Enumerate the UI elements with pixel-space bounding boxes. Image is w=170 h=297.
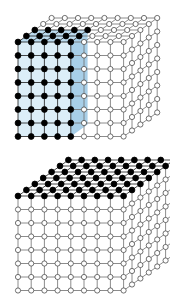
lattice-node-filled bbox=[55, 39, 61, 45]
lattice-node-open bbox=[121, 274, 126, 279]
lattice-node-open bbox=[129, 228, 134, 233]
node-layer bbox=[15, 157, 170, 293]
lattice-node-filled bbox=[37, 187, 43, 193]
lattice-node-open bbox=[81, 66, 86, 71]
lattice-node-open bbox=[155, 196, 160, 201]
lattice-node-filled bbox=[15, 134, 21, 140]
lattice-node-filled bbox=[97, 163, 103, 169]
lattice-node-filled bbox=[103, 187, 109, 193]
lattice-node-open bbox=[121, 107, 126, 112]
lattice-node-open bbox=[138, 54, 143, 59]
lattice-node-filled bbox=[28, 66, 34, 72]
lattice-node-open bbox=[54, 21, 59, 26]
lattice-node-open bbox=[108, 39, 113, 44]
lattice-node-open bbox=[155, 83, 160, 88]
lattice-node-open bbox=[81, 134, 86, 139]
lattice-node-filled bbox=[68, 193, 74, 199]
lattice-node-open bbox=[68, 274, 73, 279]
lattice-node-filled bbox=[141, 169, 147, 175]
lattice-node-open bbox=[121, 220, 126, 225]
lattice-node-open bbox=[15, 234, 20, 239]
lattice-node-open bbox=[116, 33, 121, 38]
lattice-node-filled bbox=[66, 157, 72, 163]
lattice-node-open bbox=[108, 107, 113, 112]
lattice-node-open bbox=[111, 27, 116, 32]
lattice-node-open bbox=[98, 27, 103, 32]
lattice-node-open bbox=[146, 229, 151, 234]
lattice-node-open bbox=[108, 274, 113, 279]
lattice-node-open bbox=[108, 53, 113, 58]
lattice-node-filled bbox=[72, 181, 78, 187]
lattice-node-filled bbox=[15, 66, 21, 72]
lattice-node-open bbox=[108, 220, 113, 225]
lattice-node-filled bbox=[90, 187, 96, 193]
lattice-node-open bbox=[108, 120, 113, 125]
lattice-node-filled bbox=[136, 163, 142, 169]
lattice-node-open bbox=[155, 223, 160, 228]
lattice-node-open bbox=[163, 244, 168, 249]
lattice-node-open bbox=[81, 207, 86, 212]
lattice-node-open bbox=[155, 29, 160, 34]
lattice-node-filled bbox=[80, 175, 86, 181]
lattice-node-open bbox=[29, 220, 34, 225]
lattice-node-open bbox=[146, 202, 151, 207]
lattice-node-open bbox=[146, 270, 151, 275]
lattice-node-open bbox=[81, 234, 86, 239]
lattice-node-filled bbox=[121, 193, 127, 199]
lattice-node-open bbox=[163, 258, 168, 263]
lattice-node-open bbox=[155, 110, 160, 115]
lattice-node-filled bbox=[40, 175, 46, 181]
lattice-node-open bbox=[138, 222, 143, 227]
lattice-node-open bbox=[42, 261, 47, 266]
lattice-node-open bbox=[107, 21, 112, 26]
lattice-node-filled bbox=[55, 107, 61, 113]
lattice-node-open bbox=[81, 80, 86, 85]
lattice-node-open bbox=[93, 21, 98, 26]
lattice-node-filled bbox=[28, 39, 34, 45]
lattice-node-open bbox=[108, 66, 113, 71]
lattice-node-open bbox=[108, 288, 113, 293]
lattice-node-filled bbox=[68, 93, 74, 99]
lattice-node-open bbox=[95, 274, 100, 279]
lattice-node-open bbox=[102, 15, 107, 20]
lattice-cube-with-black-top bbox=[0, 145, 170, 297]
lattice-node-open bbox=[121, 247, 126, 252]
lattice-node-filled bbox=[42, 120, 48, 126]
lattice-node-open bbox=[81, 107, 86, 112]
lattice-node-open bbox=[15, 247, 20, 252]
lattice-node-open bbox=[121, 261, 126, 266]
lattice-node-open bbox=[29, 234, 34, 239]
lattice-node-open bbox=[138, 81, 143, 86]
lattice-node-filled bbox=[92, 157, 98, 163]
lattice-node-open bbox=[115, 15, 120, 20]
lattice-node-open bbox=[163, 190, 168, 195]
lattice-node-open bbox=[108, 207, 113, 212]
lattice-node-open bbox=[155, 96, 160, 101]
lattice-node-open bbox=[146, 189, 151, 194]
lattice-node-open bbox=[90, 33, 95, 38]
lattice-node-filled bbox=[129, 187, 135, 193]
lattice-node-open bbox=[95, 120, 100, 125]
lattice-node-filled bbox=[116, 187, 122, 193]
lattice-node-filled bbox=[58, 27, 64, 33]
lattice-node-open bbox=[108, 261, 113, 266]
lattice-node-open bbox=[81, 120, 86, 125]
lattice-node-open bbox=[138, 276, 143, 281]
lattice-node-open bbox=[121, 80, 126, 85]
lattice-node-open bbox=[95, 39, 100, 44]
lattice-node-open bbox=[129, 268, 134, 273]
lattice-node-open bbox=[15, 220, 20, 225]
lattice-node-open bbox=[62, 15, 67, 20]
lattice-node-filled bbox=[15, 80, 21, 86]
lattice-node-filled bbox=[50, 187, 56, 193]
lattice-node-filled bbox=[68, 53, 74, 59]
lattice-node-open bbox=[125, 27, 130, 32]
lattice-node-open bbox=[15, 274, 20, 279]
lattice-node-open bbox=[129, 33, 134, 38]
lattice-node-filled bbox=[50, 33, 56, 39]
lattice-node-open bbox=[146, 75, 151, 80]
lattice-node-open bbox=[15, 261, 20, 266]
lattice-node-open bbox=[55, 288, 60, 293]
lattice-node-filled bbox=[68, 134, 74, 140]
lattice-node-filled bbox=[70, 163, 76, 169]
